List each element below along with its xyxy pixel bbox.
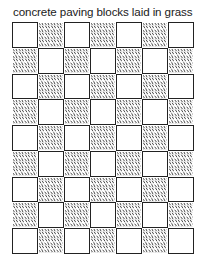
paving-block [12, 22, 38, 48]
grass-hatch-icon [64, 48, 90, 74]
grass-hatch-icon [90, 177, 116, 203]
grass-gap [116, 48, 142, 74]
grass-gap [90, 177, 116, 203]
grass-hatch-icon [90, 125, 116, 151]
paving-block [12, 177, 38, 203]
paving-block [90, 202, 116, 228]
grass-gap [90, 228, 116, 254]
paving-block [12, 74, 38, 100]
grass-gap [64, 99, 90, 125]
paving-block [116, 228, 142, 254]
paving-block [168, 177, 194, 203]
grass-gap [116, 202, 142, 228]
paving-block [64, 228, 90, 254]
grass-hatch-icon [116, 99, 142, 125]
grass-gap [38, 228, 64, 254]
grass-gap [12, 48, 38, 74]
grass-gap [142, 74, 168, 100]
paving-block [168, 22, 194, 48]
paving-grid [12, 22, 194, 254]
grass-gap [38, 22, 64, 48]
grass-gap [12, 151, 38, 177]
grass-hatch-icon [64, 99, 90, 125]
paving-block [38, 99, 64, 125]
paving-block [64, 177, 90, 203]
grass-hatch-icon [12, 202, 38, 228]
grass-hatch-icon [12, 151, 38, 177]
grass-gap [142, 125, 168, 151]
diagram-caption: concrete paving blocks laid in grass [13, 5, 192, 18]
grass-hatch-icon [38, 177, 64, 203]
grass-gap [38, 74, 64, 100]
grass-hatch-icon [64, 202, 90, 228]
grass-hatch-icon [64, 151, 90, 177]
grass-gap [142, 228, 168, 254]
grass-hatch-icon [90, 74, 116, 100]
grass-gap [12, 99, 38, 125]
grass-hatch-icon [142, 177, 168, 203]
grass-hatch-icon [142, 74, 168, 100]
grass-hatch-icon [142, 22, 168, 48]
grass-gap [64, 202, 90, 228]
grass-gap [90, 125, 116, 151]
paving-block [38, 202, 64, 228]
grass-hatch-icon [116, 48, 142, 74]
grass-gap [38, 125, 64, 151]
paving-block [12, 228, 38, 254]
grass-hatch-icon [168, 48, 194, 74]
grass-hatch-icon [38, 125, 64, 151]
paving-block [64, 22, 90, 48]
paving-block [116, 22, 142, 48]
grass-hatch-icon [168, 151, 194, 177]
paving-block [168, 125, 194, 151]
grass-gap [64, 151, 90, 177]
grass-hatch-icon [12, 48, 38, 74]
paving-block [90, 151, 116, 177]
grass-hatch-icon [38, 228, 64, 254]
grass-hatch-icon [142, 125, 168, 151]
grass-gap [38, 177, 64, 203]
grass-hatch-icon [168, 202, 194, 228]
paving-block [38, 151, 64, 177]
grass-gap [12, 202, 38, 228]
paving-block [90, 48, 116, 74]
paving-block [142, 48, 168, 74]
grass-hatch-icon [90, 228, 116, 254]
grass-gap [168, 202, 194, 228]
grass-gap [168, 99, 194, 125]
paving-block [38, 48, 64, 74]
paving-block [142, 151, 168, 177]
grass-gap [168, 151, 194, 177]
grass-hatch-icon [116, 151, 142, 177]
grass-gap [168, 48, 194, 74]
grass-gap [116, 151, 142, 177]
paving-block [168, 228, 194, 254]
grass-gap [142, 22, 168, 48]
grass-gap [142, 177, 168, 203]
paving-block [168, 74, 194, 100]
grass-gap [116, 99, 142, 125]
grass-hatch-icon [142, 228, 168, 254]
paving-block [90, 99, 116, 125]
grass-hatch-icon [90, 22, 116, 48]
grass-hatch-icon [168, 99, 194, 125]
paving-block [64, 125, 90, 151]
paving-block [116, 74, 142, 100]
grass-gap [90, 22, 116, 48]
paving-block [116, 177, 142, 203]
paving-block [116, 125, 142, 151]
grass-hatch-icon [38, 74, 64, 100]
grass-hatch-icon [116, 202, 142, 228]
paving-block [142, 202, 168, 228]
grass-gap [90, 74, 116, 100]
paving-block [142, 99, 168, 125]
paving-block [12, 125, 38, 151]
grass-gap [64, 48, 90, 74]
paving-block [64, 74, 90, 100]
grass-hatch-icon [38, 22, 64, 48]
grass-hatch-icon [12, 99, 38, 125]
